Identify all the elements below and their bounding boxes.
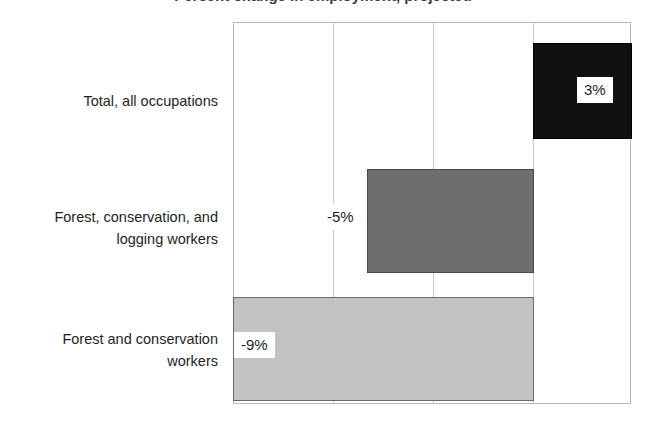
category-axis-labels: Total, all occupations Forest, conservat… bbox=[0, 22, 226, 404]
category-label-line: Forest and conservation bbox=[0, 328, 218, 350]
category-label-line: Forest, conservation, and bbox=[0, 206, 218, 228]
plot-area: 3% -5% -9% bbox=[233, 22, 631, 404]
bar-forest-conservation-workers bbox=[233, 297, 534, 401]
category-label-forest-conservation-workers: Forest and conservation workers bbox=[0, 328, 218, 373]
category-label-forest-conservation-logging-workers: Forest, conservation, and logging worker… bbox=[0, 206, 218, 251]
data-label-total-all-occupations: 3% bbox=[577, 77, 613, 103]
chart-title: Percent change in employment, projected bbox=[0, 0, 646, 4]
data-label-forest-conservation-logging-workers: -5% bbox=[320, 204, 361, 230]
data-label-forest-conservation-workers: -9% bbox=[234, 332, 275, 358]
category-label-line: workers bbox=[0, 350, 218, 372]
bar-chart: Percent change in employment, projected … bbox=[0, 0, 646, 421]
category-label-line: Total, all occupations bbox=[0, 90, 218, 112]
bar-forest-conservation-logging-workers bbox=[367, 169, 534, 273]
chart-title-strip: Percent change in employment, projected bbox=[0, 0, 646, 14]
category-label-total-all-occupations: Total, all occupations bbox=[0, 90, 218, 112]
category-label-line: logging workers bbox=[0, 228, 218, 250]
